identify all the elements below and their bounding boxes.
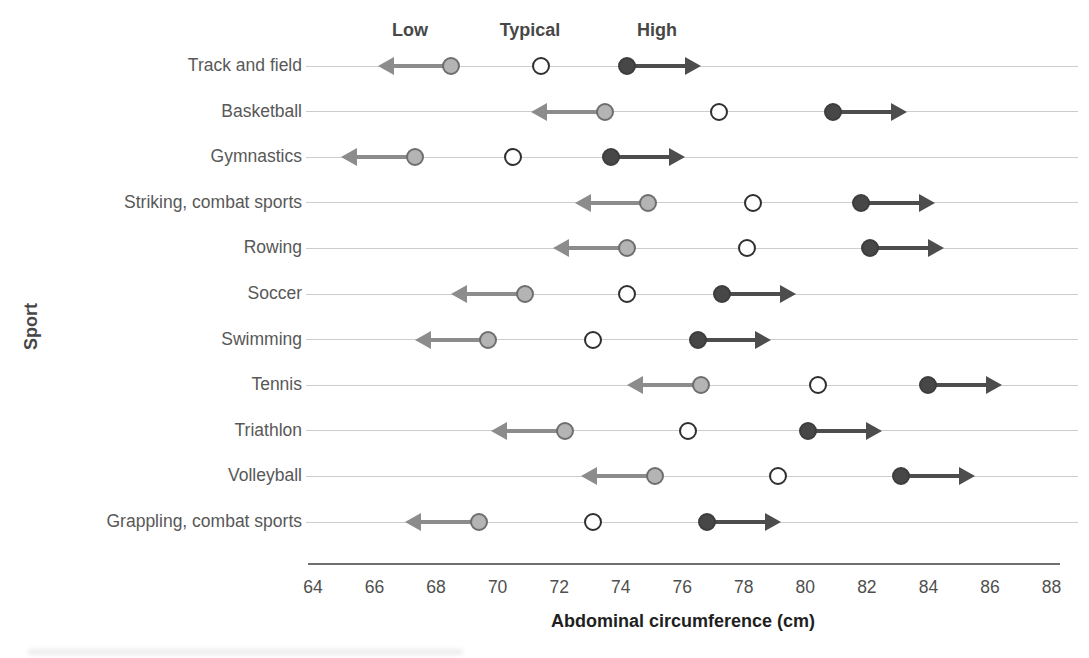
high-dot xyxy=(689,331,707,349)
y-axis-title: Sport xyxy=(21,303,42,350)
x-tick-label: 66 xyxy=(353,577,397,598)
typical-dot xyxy=(769,467,787,485)
scan-artifact-smudge xyxy=(28,649,463,655)
high-arrow-shaft xyxy=(611,155,671,159)
typical-dot xyxy=(504,148,522,166)
x-tick-label: 86 xyxy=(968,577,1012,598)
chart-figure: Low Typical High Track and fieldBasketba… xyxy=(0,0,1089,658)
low-arrow-head xyxy=(451,285,467,303)
typical-dot xyxy=(584,331,602,349)
row-label: Rowing xyxy=(12,237,302,258)
x-tick-label: 72 xyxy=(537,577,581,598)
low-dot xyxy=(556,422,574,440)
x-tick-label: 88 xyxy=(1029,577,1073,598)
row-label: Track and field xyxy=(12,55,302,76)
high-arrow-head xyxy=(919,194,935,212)
high-dot xyxy=(698,513,716,531)
row-label: Volleyball xyxy=(12,465,302,486)
low-dot xyxy=(516,285,534,303)
high-dot xyxy=(602,148,620,166)
low-arrow-head xyxy=(405,513,421,531)
high-arrow-head xyxy=(891,103,907,121)
low-arrow-head xyxy=(531,103,547,121)
high-arrow-head xyxy=(986,376,1002,394)
high-arrow-head xyxy=(685,57,701,75)
x-axis-title: Abdominal circumference (cm) xyxy=(443,611,923,632)
high-arrow-head xyxy=(669,148,685,166)
row-label: Basketball xyxy=(12,101,302,122)
high-arrow-head xyxy=(755,331,771,349)
high-dot xyxy=(799,422,817,440)
high-arrow-head xyxy=(765,513,781,531)
x-tick-label: 70 xyxy=(476,577,520,598)
x-tick-label: 64 xyxy=(291,577,335,598)
x-tick-label: 78 xyxy=(722,577,766,598)
legend-label-high: High xyxy=(637,20,677,41)
x-tick-label: 82 xyxy=(845,577,889,598)
low-arrow-head xyxy=(341,148,357,166)
low-arrow-head xyxy=(553,239,569,257)
low-dot xyxy=(639,194,657,212)
high-arrow-shaft xyxy=(928,383,988,387)
row-label: Soccer xyxy=(12,283,302,304)
low-arrow-head xyxy=(415,331,431,349)
low-dot xyxy=(596,103,614,121)
low-dot xyxy=(442,57,460,75)
high-dot xyxy=(852,194,870,212)
row-label: Tennis xyxy=(12,374,302,395)
row-label: Triathlon xyxy=(12,420,302,441)
x-tick-label: 84 xyxy=(906,577,950,598)
typical-dot xyxy=(710,103,728,121)
row-line xyxy=(306,248,1078,249)
typical-dot xyxy=(679,422,697,440)
high-arrow-shaft xyxy=(722,292,782,296)
row-line xyxy=(306,294,1078,295)
row-label: Gymnastics xyxy=(12,146,302,167)
row-line xyxy=(306,202,1078,203)
typical-dot xyxy=(584,513,602,531)
x-tick-label: 74 xyxy=(599,577,643,598)
high-arrow-head xyxy=(866,422,882,440)
high-dot xyxy=(919,376,937,394)
high-dot xyxy=(861,239,879,257)
low-arrow-head xyxy=(575,194,591,212)
x-tick-label: 80 xyxy=(783,577,827,598)
typical-dot xyxy=(809,376,827,394)
low-dot xyxy=(406,148,424,166)
high-dot xyxy=(824,103,842,121)
low-arrow-head xyxy=(378,57,394,75)
low-dot xyxy=(646,467,664,485)
low-arrow-head xyxy=(581,467,597,485)
row-label: Swimming xyxy=(12,329,302,350)
high-dot xyxy=(618,57,636,75)
high-arrow-head xyxy=(959,467,975,485)
high-dot xyxy=(892,467,910,485)
legend-label-typical: Typical xyxy=(500,20,561,41)
low-arrow-head xyxy=(627,376,643,394)
typical-dot xyxy=(618,285,636,303)
low-dot xyxy=(479,331,497,349)
legend-label-low: Low xyxy=(392,20,428,41)
low-dot xyxy=(470,513,488,531)
row-line xyxy=(306,111,1078,112)
typical-dot xyxy=(744,194,762,212)
x-axis-line xyxy=(308,563,1060,565)
low-arrow-head xyxy=(491,422,507,440)
typical-dot xyxy=(532,57,550,75)
low-dot xyxy=(618,239,636,257)
typical-dot xyxy=(738,239,756,257)
high-dot xyxy=(713,285,731,303)
x-tick-label: 68 xyxy=(414,577,458,598)
row-label: Striking, combat sports xyxy=(12,192,302,213)
high-arrow-head xyxy=(928,239,944,257)
low-dot xyxy=(692,376,710,394)
high-arrow-head xyxy=(780,285,796,303)
x-tick-label: 76 xyxy=(660,577,704,598)
high-arrow-shaft xyxy=(808,429,868,433)
row-label: Grappling, combat sports xyxy=(12,511,302,532)
